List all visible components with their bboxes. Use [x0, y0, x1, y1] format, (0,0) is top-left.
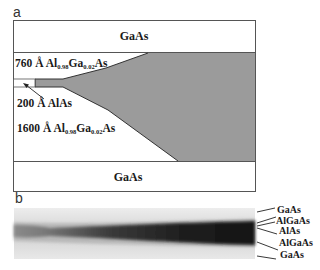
panel-b-micrograph — [14, 208, 255, 259]
label-alas: AlAs — [279, 225, 300, 236]
label-gaas-top: GaAs — [277, 204, 301, 215]
panel-b-leader-lines — [257, 208, 278, 259]
diagram-canvas: GaAs 760 Å Al0.98Ga0.02As 200 Å AlAs 160… — [0, 0, 320, 270]
label-gaas-bottom: GaAs — [280, 249, 304, 260]
bottom-gaas-label: GaAs — [114, 170, 143, 184]
label-algaas-lower: AlGaAs — [279, 237, 313, 248]
panel-b-layer-labels: GaAs AlGaAs AlAs AlGaAs GaAs — [276, 204, 313, 260]
top-gaas-label: GaAs — [120, 29, 149, 43]
panel-b-letter: b — [15, 191, 23, 205]
alas-core-label: 200 Å AlAs — [17, 96, 72, 109]
alas-layer — [14, 79, 36, 87]
panel-a-schematic: GaAs 760 Å Al0.98Ga0.02As 200 Å AlAs 160… — [14, 21, 256, 192]
